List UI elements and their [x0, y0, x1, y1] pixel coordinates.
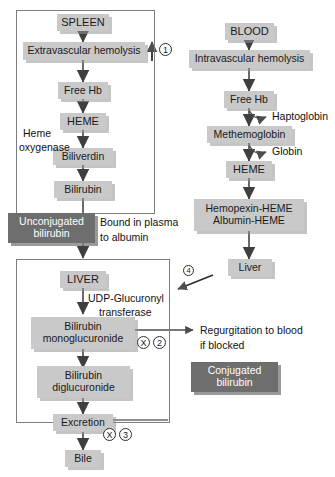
branch-label-globin: Globin	[272, 145, 302, 157]
node-excretion-label: Excretion	[61, 417, 105, 429]
node-hemopexin-albumin-heme: Hemopexin-HEME Albumin-HEME	[194, 199, 304, 231]
node-methemoglobin-label: Methemoglobin	[214, 129, 286, 141]
node-bile-label: Bile	[74, 453, 92, 465]
node-bilirubin-monoglucuronide: Bilirubin monoglucuronide	[31, 317, 135, 349]
node-bilirubin: Bilirubin	[54, 181, 112, 198]
node-liver: LIVER	[60, 271, 106, 288]
branch-label-haptoglobin: Haptoglobin	[272, 110, 328, 122]
node-heme-left-label: HEME	[67, 115, 99, 127]
liver-uptake-arrow	[178, 275, 213, 289]
node-free-hb-right-label: Free Hb	[230, 94, 268, 106]
node-bilirubin-diglucuronide: Bilirubin diglucuronide	[37, 366, 130, 398]
unconjugated-bilirubin-line2: bilirubin	[33, 228, 69, 240]
node-methemoglobin: Methemoglobin	[207, 126, 292, 143]
marker-step-4: 4	[183, 265, 194, 276]
node-bile: Bile	[65, 450, 101, 467]
node-liver-right-label: Liver	[239, 262, 262, 274]
node-heme-left: HEME	[60, 113, 106, 130]
marker-step-2: 2	[153, 336, 166, 349]
heme-oxygenase-label-line2: oxygenase	[19, 141, 70, 153]
box-unconjugated-bilirubin: Unconjugated bilirubin	[8, 213, 95, 243]
box-conjugated-bilirubin: Conjugated bilirubin	[191, 362, 278, 392]
bound-in-plasma-line1: Bound in plasma	[100, 216, 178, 228]
marker-step-1: 1	[159, 43, 172, 56]
node-free-hb-left: Free Hb	[58, 82, 108, 99]
node-spleen: SPLEEN	[57, 14, 109, 31]
node-blood: BLOOD	[225, 23, 274, 40]
bilirubin-diglucuronide-line2: diglucuronide	[52, 382, 114, 394]
conjugated-bilirubin-line2: bilirubin	[216, 377, 252, 389]
node-extravascular-hemolysis-label: Extravascular hemolysis	[27, 45, 140, 57]
node-liver-right: Liver	[228, 259, 272, 276]
udp-glucuronyl-transferase-line1: UDP-Glucuronyl	[88, 292, 164, 304]
marker-block-3: X	[103, 428, 116, 441]
bilirubin-monoglucuronide-line2: monoglucuronide	[43, 333, 124, 345]
regurgitation-label-line2: if blocked	[200, 339, 244, 351]
node-liver-label: LIVER	[67, 273, 99, 285]
node-intravascular-hemolysis-label: Intravascular hemolysis	[195, 53, 305, 65]
node-bilirubin-label: Bilirubin	[64, 184, 101, 196]
node-heme-right-label: HEME	[233, 163, 265, 175]
node-free-hb-right: Free Hb	[224, 91, 274, 108]
bound-in-plasma-line2: to albumin	[100, 231, 148, 243]
node-intravascular-hemolysis: Intravascular hemolysis	[189, 50, 310, 68]
marker-block-2: X	[137, 336, 150, 349]
heme-oxygenase-label-line1: Heme	[23, 127, 51, 139]
node-free-hb-left-label: Free Hb	[64, 85, 102, 97]
node-excretion: Excretion	[53, 414, 113, 431]
node-heme-right: HEME	[226, 161, 272, 178]
node-albumin-heme-label: Albumin-HEME	[213, 215, 285, 227]
bilirubin-metabolism-diagram: SPLEEN Extravascular hemolysis Free Hb H…	[0, 0, 335, 477]
node-blood-label: BLOOD	[230, 25, 269, 37]
marker-step-3: 3	[119, 428, 132, 441]
regurgitation-label-line1: Regurgitation to blood	[200, 324, 303, 336]
node-spleen-label: SPLEEN	[61, 16, 104, 28]
node-extravascular-hemolysis: Extravascular hemolysis	[23, 42, 145, 60]
